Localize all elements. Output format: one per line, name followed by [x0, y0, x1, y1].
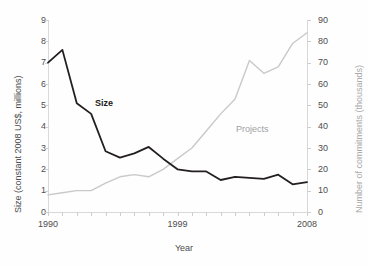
- y-axis-right-tick-label: 60: [318, 80, 338, 89]
- y-axis-left-tick-label: 2: [30, 165, 46, 174]
- size-line: [48, 50, 307, 184]
- y-axis-left-tick-label: 4: [30, 122, 46, 131]
- y-axis-right-tick-label: 0: [318, 208, 338, 217]
- y-axis-left-tick-label: 5: [30, 101, 46, 110]
- x-axis-tick-label: 1999: [158, 219, 198, 229]
- y-axis-left-tick-label: 0: [30, 208, 46, 217]
- y-axis-left-tick-label: 8: [30, 37, 46, 46]
- y-axis-right-tick-label: 90: [318, 16, 338, 25]
- size-series-label: Size: [95, 98, 113, 108]
- projects-series-label: Projects: [236, 124, 269, 134]
- chart-figure: Size (constant 2008 US$, millions) Numbe…: [0, 0, 368, 266]
- y-axis-right-tick-label: 50: [318, 101, 338, 110]
- y-axis-right-tick-label: 20: [318, 165, 338, 174]
- y-axis-right-tick-label: 10: [318, 186, 338, 195]
- x-axis-title: Year: [0, 243, 368, 253]
- y-axis-left-tick-label: 1: [30, 186, 46, 195]
- plot-area: [48, 20, 308, 213]
- y-axis-right-tick-label: 40: [318, 122, 338, 131]
- y-axis-left-tick-label: 7: [30, 58, 46, 67]
- y-axis-right-tick-label: 70: [318, 58, 338, 67]
- y-axis-left-tick-label: 6: [30, 80, 46, 89]
- projects-line: [48, 33, 307, 195]
- y-axis-left-tick-label: 3: [30, 144, 46, 153]
- y-axis-right-tick-label: 30: [318, 144, 338, 153]
- y-axis-left-tick-label: 9: [30, 16, 46, 25]
- y-axis-right-title: Number of commitments (thousands): [354, 65, 364, 213]
- series-lines: [48, 20, 308, 213]
- x-axis-tick-label: 2008: [287, 219, 327, 229]
- y-axis-right-tick-label: 80: [318, 37, 338, 46]
- x-axis-tick-label: 1990: [28, 219, 68, 229]
- y-axis-left-title: Size (constant 2008 US$, millions): [13, 75, 23, 213]
